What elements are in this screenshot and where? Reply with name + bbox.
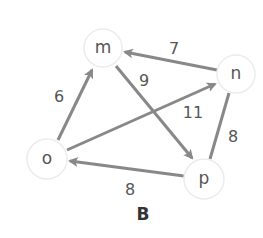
edge-label-o-n: 11	[183, 103, 203, 122]
node-m: m	[84, 29, 122, 67]
node-n: n	[217, 55, 255, 93]
edge-n-p	[210, 93, 229, 159]
node-o: o	[27, 139, 67, 179]
node-n-label: n	[231, 63, 242, 83]
edge-label-n-m: 7	[169, 39, 179, 58]
edge-label-m-p: 9	[139, 71, 149, 90]
diagram-caption: B	[137, 204, 150, 224]
graph-diagram: 7 6 9 11 8 8 m n o p B	[0, 0, 263, 238]
edge-label-n-p: 8	[228, 127, 238, 146]
node-o-label: o	[42, 148, 52, 168]
node-m-label: m	[95, 37, 112, 57]
edge-label-p-o: 8	[125, 180, 135, 199]
node-p-label: p	[199, 168, 210, 188]
node-p: p	[184, 159, 224, 199]
edge-p-to-o	[70, 161, 184, 176]
edge-label-o-m: 6	[54, 87, 64, 106]
